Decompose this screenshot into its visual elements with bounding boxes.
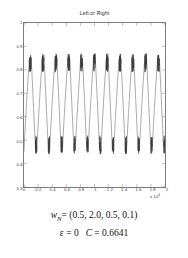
- figure-panel: Left or Right 0.30.40.50.60.70.80.9100.2…: [0, 0, 188, 208]
- x-tick-label: 0.6: [64, 188, 70, 193]
- plot-canvas: [24, 23, 165, 187]
- y-tick-label: 0.8: [17, 68, 23, 73]
- y-tick-label: 0.4: [17, 163, 23, 168]
- caption-line-2: ε = 0C = 0.6641: [0, 226, 188, 240]
- y-tick-label: 0.5: [17, 139, 23, 144]
- y-tick-label: 1: [20, 21, 22, 26]
- data-series-line: [24, 54, 165, 155]
- y-tick-label: 0.7: [17, 92, 23, 97]
- x-exponent-power: 4: [158, 193, 160, 197]
- x-tick-label: 1.4: [121, 188, 127, 193]
- x-axis-exponent-label: x 104: [150, 193, 160, 199]
- caption-line-1: wN= (0.5, 2.0, 0.5, 0.1): [0, 208, 188, 226]
- x-exponent-base: x 10: [150, 194, 158, 199]
- caption-epsilon: ε = 0: [60, 228, 79, 238]
- y-tick-label: 0.9: [17, 44, 23, 49]
- caption-c-value: = 0.6641: [94, 228, 128, 238]
- caption-c-symbol: C: [86, 228, 92, 238]
- plot-title: Left or Right: [23, 10, 166, 16]
- figure-caption: wN= (0.5, 2.0, 0.5, 0.1) ε = 0C = 0.6641: [0, 208, 188, 240]
- x-tick-label: 1: [94, 188, 96, 193]
- caption-w-value: = (0.5, 2.0, 0.5, 0.1): [62, 210, 138, 220]
- x-tick-label: 0: [23, 188, 25, 193]
- x-tick-label: 1.2: [107, 188, 113, 193]
- x-tick-label: 1.6: [135, 188, 141, 193]
- x-tick-label: 0.4: [50, 188, 56, 193]
- x-tick-label: 0.2: [35, 188, 41, 193]
- x-tick-label: 0.8: [78, 188, 84, 193]
- y-tick-label: 0.6: [17, 116, 23, 121]
- plot-axes: 0.30.40.50.60.70.80.9100.20.40.60.811.21…: [23, 22, 166, 188]
- y-tick-label: 0.3: [17, 187, 23, 192]
- x-tick-label: 2: [166, 188, 168, 193]
